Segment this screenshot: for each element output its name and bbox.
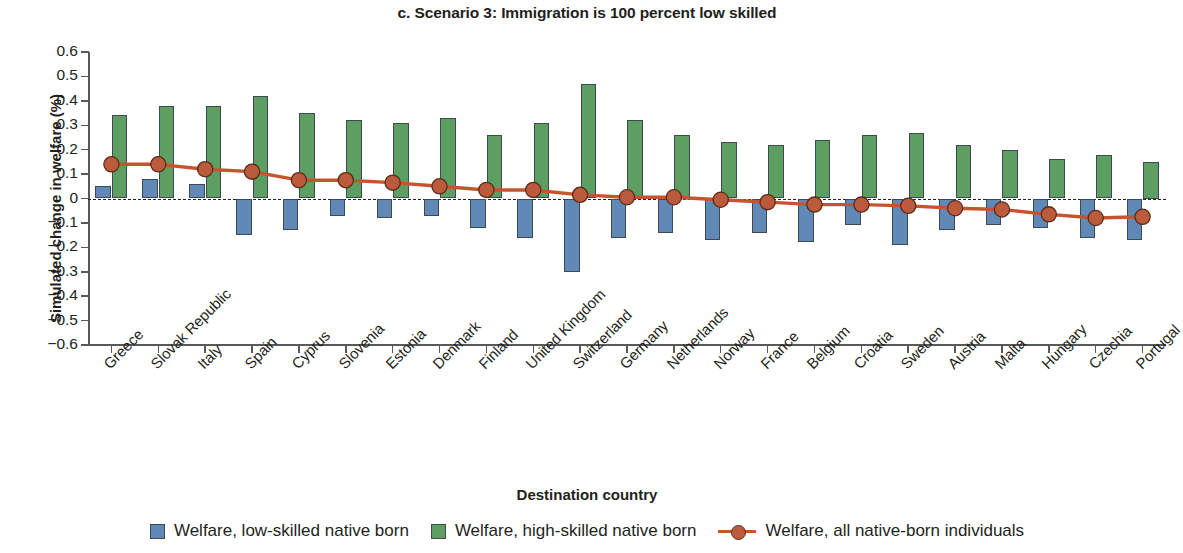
all-native-born-marker[interactable] [244, 164, 259, 179]
all-native-born-marker[interactable] [573, 187, 588, 202]
all-native-born-marker[interactable] [198, 162, 213, 177]
all-native-born-marker[interactable] [854, 197, 869, 212]
all-native-born-marker[interactable] [807, 197, 822, 212]
legend-item-low-skilled[interactable]: Welfare, low-skilled native born [150, 521, 409, 541]
legend-label-low-skilled: Welfare, low-skilled native born [174, 521, 409, 541]
y-tick-label: −0.6 [47, 336, 78, 352]
y-tick-label: 0 [69, 190, 78, 206]
all-native-born-marker[interactable] [994, 202, 1009, 217]
all-native-born-marker[interactable] [1041, 207, 1056, 222]
x-axis-title: Destination country [0, 486, 1174, 503]
legend-line-marker-icon [718, 524, 756, 539]
y-tick-label: 0.5 [56, 67, 78, 83]
all-native-born-marker[interactable] [619, 190, 634, 205]
all-native-born-marker[interactable] [713, 192, 728, 207]
all-native-born-marker[interactable] [666, 190, 681, 205]
all-native-born-marker[interactable] [760, 195, 775, 210]
all-native-born-marker[interactable] [385, 175, 400, 190]
legend-swatch-blue-icon [150, 524, 165, 539]
y-tick-label: 0.4 [56, 92, 78, 108]
chart-legend: Welfare, low-skilled native born Welfare… [0, 521, 1174, 541]
y-tick-label: 0.3 [56, 116, 78, 132]
all-native-born-marker[interactable] [947, 201, 962, 216]
legend-label-all-native-born: Welfare, all native-born individuals [765, 521, 1024, 541]
all-native-born-marker[interactable] [151, 157, 166, 172]
all-native-born-marker[interactable] [291, 173, 306, 188]
all-native-born-marker[interactable] [1088, 210, 1103, 225]
all-native-born-marker[interactable] [526, 182, 541, 197]
all-native-born-marker[interactable] [1135, 209, 1150, 224]
all-native-born-line-series [88, 52, 1166, 345]
all-native-born-marker[interactable] [901, 198, 916, 213]
y-tick-label: −0.1 [47, 214, 78, 230]
legend-item-high-skilled[interactable]: Welfare, high-skilled native born [431, 521, 697, 541]
all-native-born-marker[interactable] [104, 157, 119, 172]
y-tick-label: 0.1 [56, 165, 78, 181]
x-axis-label: Italy [194, 341, 225, 372]
y-tick-label: −0.2 [47, 238, 78, 254]
legend-swatch-green-icon [431, 524, 446, 539]
y-tick-label: −0.5 [47, 312, 78, 328]
legend-label-high-skilled: Welfare, high-skilled native born [455, 521, 697, 541]
y-tick-label: −0.3 [47, 263, 78, 279]
y-tick-label: 0.6 [56, 43, 78, 59]
chart-title: c. Scenario 3: Immigration is 100 percen… [0, 4, 1174, 22]
all-native-born-marker[interactable] [479, 182, 494, 197]
y-tick-label: 0.2 [56, 141, 78, 157]
all-native-born-marker[interactable] [338, 173, 353, 188]
legend-item-all-native-born[interactable]: Welfare, all native-born individuals [718, 521, 1024, 541]
all-native-born-marker[interactable] [432, 179, 447, 194]
y-tick-label: −0.4 [47, 287, 78, 303]
